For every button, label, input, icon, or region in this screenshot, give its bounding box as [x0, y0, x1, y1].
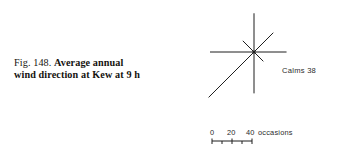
- scale-tick-label-0: 0: [210, 128, 214, 137]
- ray-northeast: [254, 33, 273, 52]
- scale-units-label: occasions: [258, 128, 293, 137]
- scale-bar: 0 20 40 occasions: [210, 128, 330, 150]
- scale-tick-label-40: 40: [246, 128, 255, 137]
- ray-southwest: [209, 52, 254, 97]
- scale-tick-label-20: 20: [227, 128, 236, 137]
- wind-rose-rays: [209, 13, 287, 97]
- figure-root: Fig. 148. Average annual wind direction …: [0, 0, 342, 156]
- calms-annotation: Calms 38: [282, 66, 316, 75]
- scale-bar-ruler: [210, 138, 330, 148]
- wind-rose-center-point: [252, 50, 255, 53]
- ray-northwest: [243, 41, 254, 52]
- ray-southeast: [254, 52, 263, 61]
